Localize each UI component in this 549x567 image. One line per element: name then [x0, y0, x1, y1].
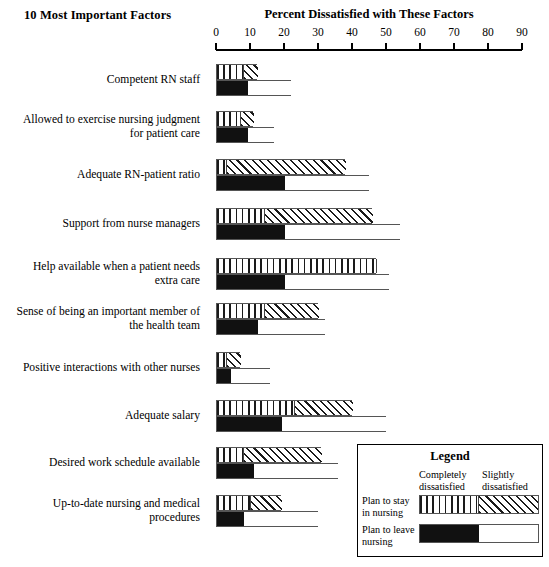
legend-row2-line1: Plan to leave: [362, 524, 420, 536]
axis-tick-20: [283, 43, 285, 50]
axis-tick-40: [351, 43, 353, 50]
row-label-line: procedures: [0, 511, 200, 525]
row-label-line: the health team: [0, 319, 200, 333]
row-label-4: Help available when a patient needsextra…: [0, 260, 200, 287]
chart-row: Positive interactions with other nurses: [0, 352, 549, 386]
row-label-line: Allowed to exercise nursing judgment: [0, 113, 200, 127]
bar-plan-to-stay: [216, 447, 321, 463]
bar-plan-to-stay: [216, 303, 318, 319]
axis-tick-90: [521, 43, 523, 50]
legend-swatch-completely-stay: [420, 496, 479, 513]
legend-swatch-completely-leave: [420, 525, 479, 542]
legend-col2-line1: Slightly: [482, 469, 540, 481]
axis-tick-70: [453, 43, 455, 50]
segment-slightly-dissatisfied-leave: [258, 320, 326, 334]
legend-col2-line2: dissatisfied: [482, 481, 540, 493]
segment-slightly-dissatisfied-leave: [248, 81, 292, 95]
segment-completely-dissatisfied-stay: [217, 353, 227, 367]
row-label-line: Desired work schedule available: [0, 456, 200, 470]
segment-slightly-dissatisfied-stay: [227, 353, 241, 367]
axis-tick-label-10: 10: [244, 26, 256, 38]
bar-plan-to-leave: [216, 80, 291, 96]
row-label-line: for patient care: [0, 127, 200, 141]
chart-root: 10 Most Important Factors Percent Dissat…: [0, 0, 549, 567]
axis-tick-label-50: 50: [380, 26, 392, 38]
axis-tick-label-90: 90: [516, 26, 528, 38]
bar-plan-to-stay: [216, 352, 240, 368]
segment-completely-dissatisfied-stay: [217, 160, 227, 174]
segment-slightly-dissatisfied-leave: [282, 417, 387, 431]
axis-tick-0: [215, 43, 217, 50]
segment-completely-dissatisfied-leave: [217, 275, 285, 289]
chart-row: Help available when a patient needsextra…: [0, 258, 549, 292]
segment-completely-dissatisfied-stay: [217, 496, 251, 510]
chart-row: Sense of being an important member ofthe…: [0, 303, 549, 337]
segment-slightly-dissatisfied-stay: [244, 65, 258, 79]
row-label-2: Adequate RN-patient ratio: [0, 168, 200, 182]
segment-slightly-dissatisfied-stay: [227, 160, 346, 174]
segment-completely-dissatisfied-stay: [217, 448, 244, 462]
legend-title: Legend: [358, 449, 542, 464]
legend-row-label-leave: Plan to leave nursing: [362, 524, 420, 547]
legend-row1-line2: in nursing: [362, 507, 420, 519]
x-axis: 0102030405060708090: [0, 0, 549, 56]
row-label-0: Competent RN staff: [0, 73, 200, 87]
segment-completely-dissatisfied-leave: [217, 320, 258, 334]
bar-plan-to-leave: [216, 175, 369, 191]
row-label-9: Up-to-date nursing and medicalprocedures: [0, 497, 200, 524]
legend-col1-line2: dissatisfied: [419, 481, 479, 493]
axis-tick-label-0: 0: [213, 26, 219, 38]
segment-slightly-dissatisfied-stay: [265, 304, 319, 318]
segment-slightly-dissatisfied-leave: [285, 225, 401, 239]
segment-slightly-dissatisfied-leave: [254, 464, 339, 478]
legend-row-label-stay: Plan to stay in nursing: [362, 495, 420, 518]
axis-tick-label-60: 60: [414, 26, 426, 38]
row-label-5: Sense of being an important member ofthe…: [0, 305, 200, 332]
segment-slightly-dissatisfied-stay: [241, 112, 255, 126]
row-label-8: Desired work schedule available: [0, 456, 200, 470]
bar-plan-to-stay: [216, 400, 352, 416]
segment-completely-dissatisfied-leave: [217, 81, 248, 95]
bar-plan-to-stay: [216, 208, 372, 224]
axis-tick-label-80: 80: [482, 26, 494, 38]
segment-completely-dissatisfied-stay: [217, 259, 377, 273]
axis-tick-60: [419, 43, 421, 50]
segment-completely-dissatisfied-stay: [217, 304, 265, 318]
chart-row: Competent RN staff: [0, 64, 549, 98]
segment-slightly-dissatisfied-stay: [244, 448, 322, 462]
bar-plan-to-stay: [216, 258, 376, 274]
bar-plan-to-leave: [216, 416, 386, 432]
legend-row2-line2: nursing: [362, 536, 420, 548]
bar-plan-to-leave: [216, 274, 389, 290]
bar-plan-to-leave: [216, 319, 325, 335]
segment-completely-dissatisfied-leave: [217, 417, 282, 431]
axis-tick-label-40: 40: [346, 26, 358, 38]
segment-slightly-dissatisfied-stay: [265, 209, 374, 223]
bar-plan-to-leave: [216, 127, 274, 143]
axis-tick-50: [385, 43, 387, 50]
row-label-line: Competent RN staff: [0, 73, 200, 87]
axis-line: [216, 49, 522, 51]
segment-completely-dissatisfied-stay: [217, 65, 244, 79]
bar-plan-to-stay: [216, 159, 345, 175]
row-label-6: Positive interactions with other nurses: [0, 361, 200, 375]
row-label-line: extra care: [0, 274, 200, 288]
chart-row: Support from nurse managers: [0, 208, 549, 242]
segment-slightly-dissatisfied-leave: [248, 128, 275, 142]
row-label-line: Adequate salary: [0, 409, 200, 423]
row-label-3: Support from nurse managers: [0, 217, 200, 231]
segment-completely-dissatisfied-leave: [217, 176, 285, 190]
legend-swatch-leave: [419, 524, 539, 543]
row-label-line: Help available when a patient needs: [0, 260, 200, 274]
segment-slightly-dissatisfied-leave: [244, 512, 319, 526]
segment-slightly-dissatisfied-leave: [231, 369, 272, 383]
segment-completely-dissatisfied-stay: [217, 209, 265, 223]
axis-tick-label-30: 30: [312, 26, 324, 38]
bar-plan-to-stay: [216, 111, 253, 127]
chart-row: Allowed to exercise nursing judgmentfor …: [0, 111, 549, 145]
axis-tick-80: [487, 43, 489, 50]
segment-slightly-dissatisfied-leave: [285, 275, 390, 289]
axis-tick-10: [249, 43, 251, 50]
segment-completely-dissatisfied-leave: [217, 369, 231, 383]
row-label-line: Positive interactions with other nurses: [0, 361, 200, 375]
